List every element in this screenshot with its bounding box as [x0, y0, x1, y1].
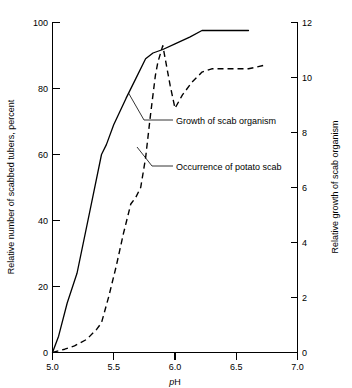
x-tick-labels: 5.0 5.5 6.0 6.5 7.0 [46, 362, 304, 372]
left-ytick-60: 60 [38, 150, 48, 160]
right-ytick-2: 2 [302, 293, 307, 303]
left-y-axis: 100 80 60 40 20 0 Relative number of sca… [6, 18, 60, 358]
x-axis-title: pH [168, 377, 181, 387]
right-ytick-6: 6 [302, 183, 307, 193]
right-ytick-4: 4 [302, 238, 307, 248]
left-ytick-80: 80 [38, 84, 48, 94]
right-y-axis-title: Relative growth of scab organism [330, 120, 340, 253]
xtick-6-5: 6.5 [230, 362, 243, 372]
occurrence-label-leader-line [137, 147, 173, 166]
right-y-tick-labels: 12 10 8 6 4 2 0 [302, 18, 312, 358]
xtick-5-5: 5.5 [107, 362, 120, 372]
series-group [53, 31, 264, 353]
left-y-axis-title: Relative number of scabbed tubers, perce… [6, 99, 16, 274]
chart-figure: 100 80 60 40 20 0 Relative number of sca… [0, 0, 352, 388]
scab-ph-line-chart: 100 80 60 40 20 0 Relative number of sca… [0, 0, 352, 388]
x-ticks [53, 353, 298, 360]
x-axis-title-h: H [174, 377, 181, 387]
left-y-ticks [53, 23, 60, 353]
left-y-tick-labels: 100 80 60 40 20 0 [33, 18, 48, 358]
right-y-ticks [291, 23, 298, 353]
xtick-5-0: 5.0 [46, 362, 59, 372]
right-ytick-10: 10 [302, 73, 312, 83]
annotation-occurrence-of-potato-scab: Occurrence of potato scab [176, 162, 282, 172]
left-ytick-40: 40 [38, 216, 48, 226]
right-ytick-8: 8 [302, 128, 307, 138]
left-ytick-0: 0 [43, 348, 48, 358]
xtick-7-0: 7.0 [291, 362, 304, 372]
right-y-axis: 12 10 8 6 4 2 0 Relative growth of scab … [291, 18, 341, 358]
series-occurrence-of-potato-scab [53, 46, 264, 353]
xtick-6-0: 6.0 [169, 362, 182, 372]
x-axis: 5.0 5.5 6.0 6.5 7.0 pH [46, 353, 304, 388]
series-growth-of-scab-organism [53, 31, 249, 353]
right-ytick-12: 12 [302, 18, 312, 28]
left-ytick-20: 20 [38, 282, 48, 292]
left-ytick-100: 100 [33, 18, 48, 28]
annotation-growth-of-scab-organism: Growth of scab organism [176, 116, 276, 126]
right-ytick-0: 0 [302, 348, 307, 358]
